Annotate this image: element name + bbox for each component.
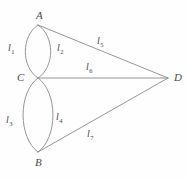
vertex-label-b: B — [35, 157, 42, 168]
edge-l3-path — [23, 78, 38, 152]
edge-label-l6: l6 — [86, 62, 92, 72]
vertex-label-c: C — [17, 72, 24, 83]
edge-label-l4: l4 — [56, 112, 62, 122]
vertex-label-a: A — [36, 10, 43, 21]
edge-label-l6-subscript: 6 — [89, 67, 92, 74]
edge-label-l3-subscript: 3 — [9, 120, 12, 127]
edge-label-l5: l5 — [97, 36, 103, 46]
vertex-label-d: D — [174, 72, 182, 83]
edge-l2-path — [38, 25, 51, 78]
edge-l4-path — [38, 78, 53, 152]
edge-label-l1: l1 — [8, 43, 14, 53]
graph-diagram-canvas: A B C D l1 l2 l3 l4 l5 l6 l7 — [0, 0, 188, 178]
edge-label-l3: l3 — [6, 115, 12, 125]
edge-label-l7-subscript: 7 — [90, 134, 93, 141]
graph-edges-svg — [0, 0, 188, 178]
edge-label-l5-subscript: 5 — [100, 41, 103, 48]
edge-label-l7: l7 — [87, 129, 93, 139]
edge-label-l2: l2 — [57, 43, 63, 53]
edge-label-l4-subscript: 4 — [59, 117, 62, 124]
edge-label-l2-subscript: 2 — [60, 48, 63, 55]
edge-label-l1-subscript: 1 — [11, 48, 14, 55]
edge-l1-path — [25, 25, 38, 78]
